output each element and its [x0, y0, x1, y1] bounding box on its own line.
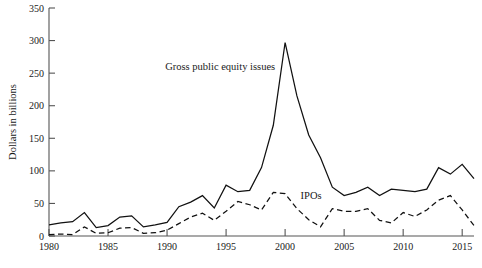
x-tick-label: 2005	[334, 241, 354, 252]
y-tick-label: 250	[29, 68, 44, 79]
y-tick-label: 200	[29, 100, 44, 111]
y-axis-tick-labels: 050100150200250300350	[29, 3, 44, 242]
x-tick-label: 2000	[275, 241, 295, 252]
y-axis: 050100150200250300350	[29, 3, 55, 242]
y-tick-label: 50	[34, 198, 44, 209]
y-tick-label: 300	[29, 35, 44, 46]
y-tick-label: 100	[29, 165, 44, 176]
x-tick-label: 2010	[393, 241, 413, 252]
x-tick-label: 2015	[452, 241, 472, 252]
x-axis-tick-labels: 19801985199019952000200520102015	[39, 241, 472, 252]
x-tick-label: 1980	[39, 241, 59, 252]
y-tick-label: 0	[39, 231, 44, 242]
series-annotations: Gross public equity issuesIPOs	[165, 61, 321, 201]
line-chart: 050100150200250300350 198019851990199520…	[0, 0, 482, 268]
series-label-ipos: IPOs	[301, 190, 322, 201]
y-axis-ticks	[49, 8, 55, 236]
series-line-ipos	[49, 192, 474, 234]
x-tick-label: 1990	[157, 241, 177, 252]
x-axis-ticks	[49, 229, 462, 236]
y-tick-label: 150	[29, 133, 44, 144]
x-tick-label: 1985	[98, 241, 118, 252]
y-tick-label: 350	[29, 3, 44, 14]
y-axis-title: Dollars in billions	[7, 84, 18, 160]
x-tick-label: 1995	[216, 241, 236, 252]
chart-container: 050100150200250300350 198019851990199520…	[0, 0, 482, 268]
series-label-gross-public-equity-issues: Gross public equity issues	[165, 61, 275, 72]
